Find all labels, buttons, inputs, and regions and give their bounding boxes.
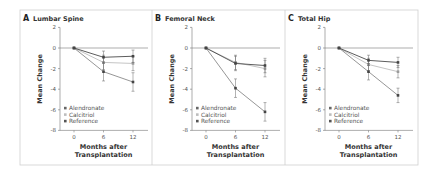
data-marker — [73, 47, 76, 50]
data-marker — [397, 94, 400, 97]
y-axis-label: Mean Change — [301, 54, 309, 104]
legend-marker — [329, 113, 332, 116]
y-tick-label: -4 — [183, 86, 189, 92]
y-axis-label: Mean Change — [36, 54, 44, 104]
panel-letter: A — [23, 14, 30, 23]
legend-marker — [329, 107, 332, 110]
x-tick-label: 12 — [395, 134, 402, 140]
data-marker — [132, 81, 135, 84]
y-tick-label: -6 — [316, 107, 322, 113]
x-axis-label: Transplantation — [207, 151, 265, 159]
data-marker — [132, 55, 135, 58]
y-tick-label: -2 — [183, 66, 188, 72]
data-marker — [397, 61, 400, 64]
y-tick-label: -8 — [183, 127, 189, 133]
x-axis-label: Transplantation — [340, 151, 398, 159]
y-tick-label: -6 — [183, 107, 189, 113]
x-tick-label: 6 — [367, 134, 371, 140]
legend-label: Reference — [201, 118, 231, 124]
legend-marker — [196, 120, 199, 123]
y-tick-label: -6 — [51, 107, 57, 113]
y-tick-label: -4 — [316, 86, 322, 92]
legend-label: Alendronate — [334, 105, 370, 111]
y-tick-label: -8 — [316, 127, 322, 133]
figure-frame — [20, 10, 418, 165]
legend-label: Reference — [334, 118, 364, 124]
data-marker — [102, 70, 105, 73]
data-marker — [338, 47, 341, 50]
x-axis-label: Months after — [80, 143, 128, 151]
legend-marker — [329, 120, 332, 123]
legend-marker — [64, 113, 67, 116]
x-axis-label: Transplantation — [75, 151, 133, 159]
y-tick-label: 0 — [185, 45, 189, 51]
y-tick-label: 0 — [318, 45, 322, 51]
x-tick-label: 0 — [204, 134, 208, 140]
data-marker — [367, 70, 370, 73]
y-tick-label: 0 — [53, 45, 57, 51]
y-tick-label: 2 — [318, 24, 322, 30]
legend-label: Reference — [69, 118, 99, 124]
data-marker — [367, 59, 370, 62]
y-axis-label: Mean Change — [168, 54, 176, 104]
x-tick-label: 0 — [72, 134, 76, 140]
panel-letter: C — [288, 14, 294, 23]
panel-title: Femoral Neck — [165, 15, 216, 23]
x-axis-label: Months after — [345, 143, 393, 151]
data-marker — [234, 62, 237, 65]
legend-label: Alendronate — [201, 105, 237, 111]
y-tick-label: -2 — [51, 66, 56, 72]
panel-title: Total Hip — [298, 15, 331, 23]
legend-label: Calcitriol — [69, 112, 95, 118]
figure: ALumbar Spine20-2-4-6-80612Mean ChangeMo… — [0, 0, 433, 179]
data-marker — [234, 87, 237, 90]
data-marker — [102, 56, 105, 59]
x-tick-label: 0 — [337, 134, 341, 140]
y-tick-label: -4 — [51, 86, 57, 92]
x-axis-label: Months after — [212, 143, 260, 151]
y-tick-label: 2 — [185, 24, 189, 30]
legend-label: Calcitriol — [334, 112, 360, 118]
chart-svg: ALumbar Spine20-2-4-6-80612Mean ChangeMo… — [0, 0, 433, 179]
y-tick-label: 2 — [53, 24, 57, 30]
x-tick-label: 12 — [130, 134, 137, 140]
panel-title: Lumbar Spine — [33, 15, 84, 23]
legend-marker — [64, 107, 67, 110]
legend-marker — [196, 107, 199, 110]
x-tick-label: 6 — [102, 134, 106, 140]
y-tick-label: -8 — [51, 127, 57, 133]
legend-marker — [64, 120, 67, 123]
y-tick-label: -2 — [316, 66, 321, 72]
legend-label: Alendronate — [69, 105, 105, 111]
x-tick-label: 6 — [234, 134, 238, 140]
legend-label: Calcitriol — [201, 112, 227, 118]
data-marker — [264, 64, 267, 67]
panel-letter: B — [155, 14, 161, 23]
data-marker — [397, 70, 400, 73]
data-marker — [205, 47, 208, 50]
x-tick-label: 12 — [262, 134, 269, 140]
legend-marker — [196, 113, 199, 116]
data-marker — [264, 111, 267, 114]
